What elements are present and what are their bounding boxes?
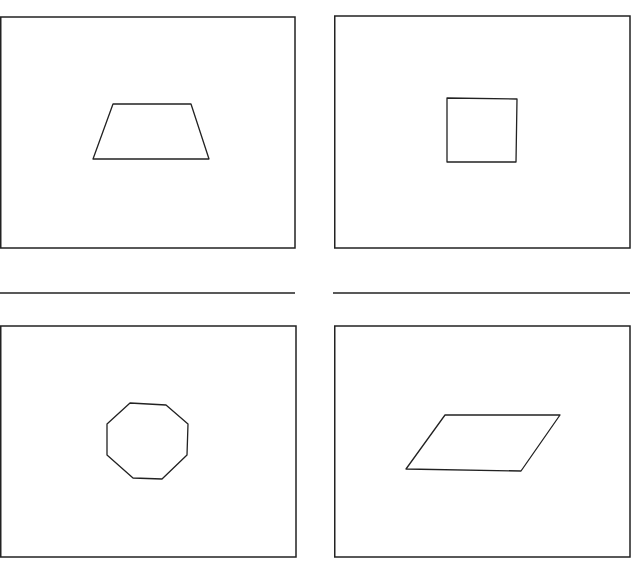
octagon-shape <box>107 403 188 479</box>
panel-top-left <box>1 17 295 248</box>
square-shape <box>447 98 517 162</box>
panel-frame <box>1 17 295 248</box>
shapes-diagram <box>0 0 631 576</box>
panel-frame <box>1 326 296 557</box>
trapezoid-shape <box>93 104 209 159</box>
panel-bottom-right <box>335 326 630 557</box>
panel-frame <box>335 326 630 557</box>
panel-top-right <box>335 16 630 248</box>
panel-bottom-left <box>1 326 296 557</box>
parallelogram-shape <box>406 415 560 471</box>
panel-frame <box>335 16 630 248</box>
